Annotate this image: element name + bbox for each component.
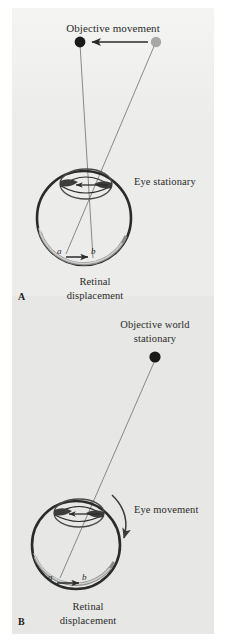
panel-b-point-a-label: a [48,572,53,582]
panel-a-light-rays [66,44,155,258]
panel-b-eye-label: Eye movement [134,504,198,516]
panel-a-target-start-dot [151,37,161,47]
figure-root: Objective movement Eye stationary a b Re… [0,0,228,643]
panel-b-point-b-label: b [82,572,87,582]
panel-a-caption-line2: displacement [40,290,150,302]
panel-a-target-end-dot [75,37,86,48]
panel-a-title: Objective movement [38,22,188,35]
panel-a-letter: A [18,291,25,303]
panel-b-caption-line2: displacement [33,615,143,627]
panel-b-cornea [54,499,104,527]
panel-b-target-dot [149,351,160,362]
panel-b-title-line2: stationary [95,333,215,345]
panel-a-point-b-label: b [91,246,96,256]
panel-b-title-line1: Objective world [95,319,215,331]
panel-a-point-a-label: a [57,246,62,256]
panel-b-light-ray [60,360,155,578]
panel-b-caption-line1: Retinal [33,601,143,613]
panel-a-caption-line1: Retinal [40,276,150,288]
panel-a-cornea [60,169,112,199]
panel-b-letter: B [18,616,25,628]
panel-a-eye-label: Eye stationary [134,176,196,188]
